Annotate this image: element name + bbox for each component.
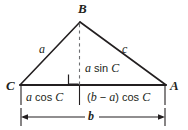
vertex-label-B: B [78, 2, 87, 15]
geometry-figure: B C A a c a sin C a cos C (b − a) cos C … [0, 0, 188, 130]
dimension-arrowhead-left [21, 114, 28, 119]
right-angle-marker [69, 75, 79, 85]
dimension-arrowhead-right [158, 114, 165, 119]
left-segment-label: a cos C [26, 91, 63, 103]
vertex-label-A: A [170, 79, 179, 92]
right-segment-label: (b − a) cos C [87, 91, 150, 103]
left-segment-label-text: a cos C [26, 91, 63, 103]
altitude-label-text: a sin C [85, 62, 119, 74]
triangle-side-a-line [20, 22, 80, 85]
vertex-label-C: C [6, 79, 15, 92]
altitude-label: a sin C [85, 62, 119, 74]
base-dimension-label: b [88, 110, 94, 122]
side-label-c: c [122, 43, 127, 55]
side-label-a: a [39, 43, 45, 55]
right-segment-label-text: (b − a) cos C [87, 91, 150, 103]
